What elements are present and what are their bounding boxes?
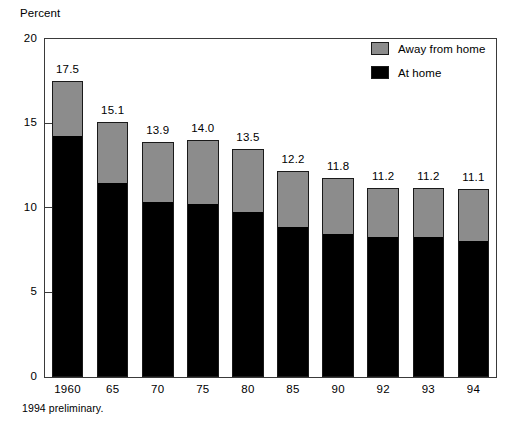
bar-segment-away-from-home[interactable] bbox=[277, 171, 309, 377]
y-axis-tick-label: 20 bbox=[7, 32, 37, 44]
y-axis-tick-label: 10 bbox=[7, 201, 37, 213]
y-axis-tick-label: 5 bbox=[7, 285, 37, 297]
bar-segment-at-home[interactable] bbox=[323, 234, 353, 376]
bar-group bbox=[52, 39, 84, 377]
y-axis-title: Percent bbox=[20, 7, 60, 19]
bar-segment-away-from-home[interactable] bbox=[142, 142, 174, 377]
bar-segment-away-from-home[interactable] bbox=[52, 81, 84, 377]
bar-segment-at-home[interactable] bbox=[98, 183, 128, 376]
bar-value-label: 11.1 bbox=[443, 171, 503, 183]
legend-swatch-icon bbox=[371, 66, 389, 79]
y-axis-tick-label: 15 bbox=[7, 116, 37, 128]
bar-group bbox=[277, 39, 309, 377]
chart-legend: Away from homeAt home bbox=[371, 42, 485, 90]
stacked-bar-chart: Percent 05101520 1960657075808590929394 … bbox=[0, 0, 519, 423]
legend-item[interactable]: At home bbox=[371, 66, 485, 79]
bar-segment-at-home[interactable] bbox=[414, 237, 444, 376]
bar-segment-at-home[interactable] bbox=[143, 202, 173, 376]
bar-segment-at-home[interactable] bbox=[53, 136, 83, 376]
bar-group bbox=[322, 39, 354, 377]
bar-segment-away-from-home[interactable] bbox=[458, 189, 490, 377]
bar-segment-away-from-home[interactable] bbox=[232, 149, 264, 377]
bar-value-label: 17.5 bbox=[38, 63, 98, 75]
bar-segment-at-home[interactable] bbox=[459, 241, 489, 376]
bar-value-label: 13.5 bbox=[218, 131, 278, 143]
legend-item[interactable]: Away from home bbox=[371, 42, 485, 55]
bar-segment-away-from-home[interactable] bbox=[367, 188, 399, 377]
bar-segment-away-from-home[interactable] bbox=[97, 122, 129, 377]
x-axis-tick-label: 94 bbox=[443, 383, 503, 395]
bar-value-label: 15.1 bbox=[83, 104, 143, 116]
legend-swatch-icon bbox=[371, 42, 389, 55]
bar-segment-at-home[interactable] bbox=[233, 212, 263, 376]
bar-segment-away-from-home[interactable] bbox=[187, 140, 219, 377]
legend-label: At home bbox=[398, 67, 442, 79]
bar-segment-at-home[interactable] bbox=[368, 237, 398, 376]
bar-group bbox=[142, 39, 174, 377]
bar-segment-at-home[interactable] bbox=[188, 204, 218, 376]
bar-segment-away-from-home[interactable] bbox=[413, 188, 445, 377]
bar-group bbox=[187, 39, 219, 377]
footnote: 1994 preliminary. bbox=[22, 402, 103, 414]
bar-group bbox=[232, 39, 264, 377]
bar-segment-at-home[interactable] bbox=[278, 227, 308, 376]
y-axis-tick-label: 0 bbox=[7, 370, 37, 382]
legend-label: Away from home bbox=[398, 43, 485, 55]
bar-group bbox=[97, 39, 129, 377]
bar-segment-away-from-home[interactable] bbox=[322, 178, 354, 377]
